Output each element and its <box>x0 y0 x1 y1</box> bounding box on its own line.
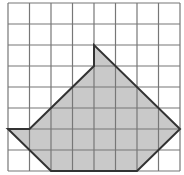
grid-diagram <box>0 0 184 175</box>
